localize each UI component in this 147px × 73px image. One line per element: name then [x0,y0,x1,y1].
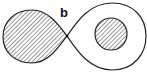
left-lobe [3,10,67,63]
inner-circle [95,18,127,50]
figure-eight-diagram [0,0,147,73]
crossing-point [66,35,69,38]
crossing-point-label: b [60,6,68,19]
